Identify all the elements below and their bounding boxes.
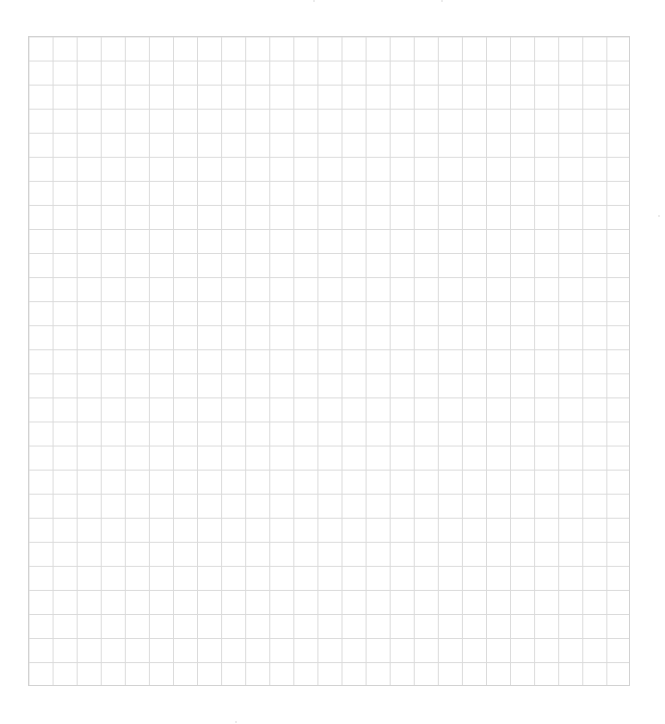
graph-paper-grid [28,36,630,686]
stray-mark [658,215,660,217]
cropped-text-fragment [441,0,443,2]
cropped-text-fragment [235,721,237,723]
cropped-text-fragment [313,0,315,2]
